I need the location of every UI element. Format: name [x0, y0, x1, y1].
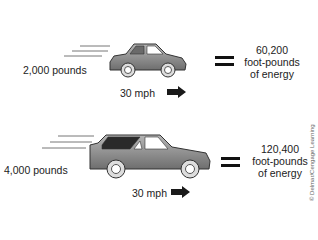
small-car-icon	[106, 40, 188, 80]
energy-result: 60,200 foot-pounds of energy	[237, 44, 307, 80]
weight-label: 2,000 pounds	[23, 64, 87, 76]
energy-unit: foot-pounds	[237, 56, 307, 68]
energy-value: 60,200	[237, 44, 307, 56]
energy-suffix: of energy	[237, 68, 307, 80]
speed-label: 30 mph	[120, 87, 155, 99]
large-car-icon	[88, 133, 213, 181]
copyright-credit: © Delmar/Cengage Learning	[309, 125, 315, 201]
weight-label: 4,000 pounds	[4, 164, 68, 176]
speed-lines-icon	[40, 134, 95, 150]
energy-suffix: of energy	[245, 167, 315, 179]
speed-label: 30 mph	[132, 187, 167, 199]
energy-result: 120,400 foot-pounds of energy	[245, 143, 315, 179]
arrow-right-icon	[167, 86, 187, 98]
equals-sign	[215, 56, 234, 66]
energy-value: 120,400	[245, 143, 315, 155]
arrow-right-icon	[171, 186, 191, 198]
speed-lines-icon	[62, 44, 112, 60]
equals-sign	[221, 157, 240, 167]
energy-unit: foot-pounds	[245, 155, 315, 167]
